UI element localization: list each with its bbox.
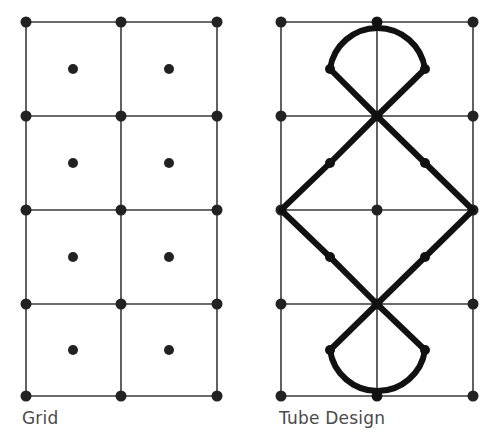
- tube-design-panel: [276, 17, 479, 402]
- grid-node-dot: [21, 391, 32, 402]
- grid-node-dot: [212, 111, 223, 122]
- grid-node-dot: [212, 299, 223, 310]
- grid-node-dot: [116, 17, 127, 28]
- tube-node: [325, 252, 335, 262]
- grid-panel: [21, 17, 223, 402]
- grid-node-dot: [276, 391, 287, 402]
- grid-node-dot: [468, 299, 479, 310]
- tube-node: [420, 345, 430, 355]
- center-dot: [68, 252, 78, 262]
- grid-node-dot: [212, 17, 223, 28]
- grid-node-dot: [21, 299, 32, 310]
- grid-node-dot: [212, 391, 223, 402]
- diagram-canvas: [0, 0, 500, 439]
- tube-node: [372, 391, 382, 401]
- grid-node-dot: [468, 17, 479, 28]
- tube-node: [325, 345, 335, 355]
- center-dot: [164, 345, 174, 355]
- center-dot: [68, 158, 78, 168]
- center-dot: [164, 64, 174, 74]
- center-dot: [164, 158, 174, 168]
- center-dot: [68, 64, 78, 74]
- center-dot: [372, 205, 382, 215]
- grid-node-dot: [212, 205, 223, 216]
- tube-node: [325, 64, 335, 74]
- tube-node: [420, 252, 430, 262]
- tube-node: [372, 17, 382, 27]
- grid-node-dot: [21, 17, 32, 28]
- tube-node: [420, 158, 430, 168]
- center-dot: [68, 345, 78, 355]
- grid-node-dot: [21, 205, 32, 216]
- tube-node: [325, 158, 335, 168]
- center-dot: [164, 252, 174, 262]
- grid-node-dot: [116, 205, 127, 216]
- grid-caption: Grid: [22, 408, 58, 428]
- grid-node-dot: [21, 111, 32, 122]
- tube-node: [420, 64, 430, 74]
- grid-node-dot: [276, 17, 287, 28]
- grid-node-dot: [116, 111, 127, 122]
- grid-node-dot: [276, 299, 287, 310]
- grid-node-dot: [276, 111, 287, 122]
- grid-node-dot: [116, 391, 127, 402]
- grid-node-dot: [116, 299, 127, 310]
- grid-node-dot: [468, 111, 479, 122]
- grid-node-dot: [468, 391, 479, 402]
- tube-design-caption: Tube Design: [279, 408, 385, 428]
